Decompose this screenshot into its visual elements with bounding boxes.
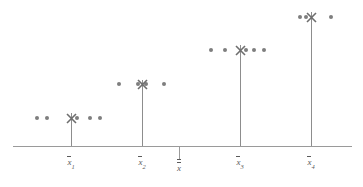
- group-mean-marker-3: [235, 45, 246, 56]
- data-point: [298, 15, 302, 19]
- x-axis-line: [13, 146, 352, 147]
- axis-label-group-3: x3: [220, 158, 260, 169]
- axis-label-group-1: x1: [51, 158, 91, 169]
- data-point: [98, 116, 102, 120]
- data-point: [117, 82, 121, 86]
- group-mean-marker-2: [137, 79, 148, 90]
- data-point: [223, 48, 227, 52]
- group-stem-4: [311, 12, 312, 146]
- group-stem-3: [240, 45, 241, 146]
- axis-label-grand-mean: x: [159, 164, 199, 173]
- group-mean-marker-1: [66, 113, 77, 124]
- data-point: [329, 15, 333, 19]
- data-point: [88, 116, 92, 120]
- grand-mean-tick: [179, 146, 180, 160]
- group-stem-2: [142, 80, 143, 146]
- data-point: [162, 82, 166, 86]
- data-point: [35, 116, 39, 120]
- data-point: [45, 116, 49, 120]
- axis-label-group-2: x2: [122, 158, 162, 169]
- group-mean-marker-4: [306, 12, 317, 23]
- axis-label-group-4: x4: [291, 158, 331, 169]
- data-point: [252, 48, 256, 52]
- data-point: [209, 48, 213, 52]
- data-point: [262, 48, 266, 52]
- dot-plot-figure: x1x2x3x4x: [0, 0, 363, 187]
